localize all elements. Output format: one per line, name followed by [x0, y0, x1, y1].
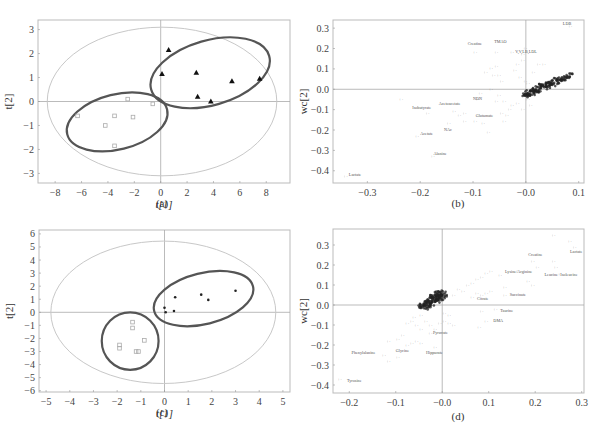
metabolite-label: TMAO [494, 39, 506, 44]
control-sample-marker [131, 320, 135, 324]
x-tick-label: −0.3 [358, 187, 376, 198]
loading-cluster-point [569, 72, 572, 75]
loading-point: + · [433, 346, 437, 350]
metabolite-label: Acetoacetate [439, 101, 461, 106]
y-tick-label: 6 [30, 228, 35, 239]
y-tick-label: −3 [24, 346, 35, 357]
metabolite-label: Glutamate [476, 113, 494, 118]
loading-point: + · [531, 71, 535, 75]
x-tick-label: 3 [233, 396, 238, 407]
group-ellipse [61, 83, 174, 161]
loading-point: + · [507, 108, 511, 112]
loading-point: + · [419, 342, 423, 346]
caption-a: (a) [147, 197, 177, 209]
y-tick-label: −0.4 [311, 380, 329, 391]
loading-cluster-point [551, 82, 554, 85]
x-tick-label: 0.3 [575, 397, 588, 408]
y-tick-label: −4 [24, 359, 35, 370]
metabolite-label: Phenylalanine [352, 350, 376, 355]
y-tick-label: −1 [24, 320, 35, 331]
loading-point: + · [428, 332, 432, 336]
x-tick-label: 5 [280, 396, 285, 407]
loading-point: + · [484, 320, 488, 324]
metabolite-label: Citrate [477, 296, 489, 301]
loading-cluster-point [524, 93, 527, 96]
loading-cluster-point [424, 304, 427, 307]
loading-point: + · [499, 112, 503, 116]
group-ellipse [102, 312, 159, 369]
loading-point: + · [414, 324, 418, 328]
loading-point: + · [412, 316, 416, 320]
loading-point: + · [521, 53, 525, 57]
loading-point: + · [382, 354, 386, 358]
metabolite-label: Alanine [433, 151, 446, 156]
loading-cluster-point [419, 302, 422, 305]
y-axis-label: t[2] [2, 94, 14, 110]
loading-point: + · [452, 324, 456, 328]
y-tick-label: 0.1 [317, 63, 330, 74]
x-tick-label: 8 [264, 187, 269, 198]
loading-point: + · [489, 290, 493, 294]
caption-b: (b) [443, 197, 473, 209]
loading-cluster-point [560, 80, 563, 83]
loading-cluster-point [551, 79, 554, 82]
treated-sample-marker [234, 289, 237, 292]
loading-point: + · [479, 276, 483, 280]
y-tick-label: 0.1 [317, 280, 330, 291]
loading-cluster-point [438, 292, 441, 295]
y-tick-label: −0.3 [311, 145, 329, 156]
y-tick-label: −1 [23, 120, 34, 131]
loading-point: + · [542, 63, 546, 67]
plot-b-loadings-plot: −0.3−0.2−0.1−0.00.1−0.4−0.3−0.2−0.10.00.… [297, 20, 585, 198]
loading-point: + · [493, 308, 497, 312]
loading-cluster-point [528, 95, 531, 98]
y-tick-label: 4 [30, 255, 35, 266]
metabolite-label: DMA [493, 318, 503, 323]
loading-cluster-point [546, 88, 549, 91]
x-tick-label: 0.2 [529, 397, 542, 408]
x-tick-label: −2 [112, 396, 123, 407]
loading-point: + · [531, 284, 535, 288]
loading-cluster-point [538, 89, 541, 92]
loading-point: + · [510, 104, 514, 108]
loading-point: + · [497, 94, 501, 98]
x-tick-label: −6 [76, 187, 87, 198]
loading-cluster-point [432, 294, 435, 297]
loading-point: + · [442, 312, 446, 316]
loading-point: + · [475, 278, 479, 282]
metabolite-label: Hippurate [426, 350, 443, 355]
y-tick-label: 3 [29, 24, 34, 35]
treated-sample-marker [159, 71, 165, 76]
loading-point: + · [462, 112, 466, 116]
loading-point: + · [473, 120, 477, 124]
control-sample-marker [131, 326, 135, 330]
loading-point: + · [396, 356, 400, 360]
loading-point: + · [424, 320, 428, 324]
metabolite-label: NAc [444, 127, 452, 132]
treated-sample-marker [166, 47, 172, 52]
control-sample-marker [126, 97, 130, 101]
y-tick-label: −3 [23, 168, 34, 179]
loading-point: + · [536, 63, 540, 67]
y-tick-label: −0.3 [311, 360, 329, 371]
loading-cluster-point [548, 81, 551, 84]
loading-point: + · [513, 69, 517, 73]
control-sample-marker [113, 144, 117, 148]
loading-point: + · [447, 314, 451, 318]
plot-frame [333, 229, 584, 393]
x-tick-label: −4 [103, 187, 114, 198]
x-tick-label: −1 [136, 396, 147, 407]
caption-d: (d) [443, 410, 473, 422]
loading-point: + · [486, 131, 490, 135]
y-axis-label: t[2] [3, 303, 15, 319]
x-tick-label: 0.1 [572, 187, 585, 198]
loading-point: + · [410, 320, 414, 324]
loading-cluster-point [434, 299, 437, 302]
loading-point: + · [510, 51, 514, 55]
loading-point: + · [399, 98, 403, 102]
metabolite-label: Lactate [349, 172, 361, 177]
loading-cluster-point [444, 292, 447, 295]
x-tick-label: −4 [64, 396, 75, 407]
loading-point: + · [396, 338, 400, 342]
y-tick-label: 2 [29, 48, 34, 59]
